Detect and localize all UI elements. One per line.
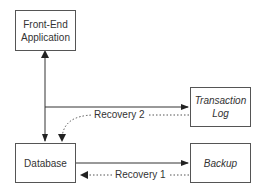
recovery-1-label: Recovery 1 bbox=[113, 169, 168, 181]
node-label: Transaction bbox=[195, 94, 247, 107]
node-label: Log bbox=[195, 107, 247, 120]
front-end-application-node: Front-End Application bbox=[15, 10, 76, 51]
recovery-2-label: Recovery 2 bbox=[92, 109, 147, 121]
database-node: Database bbox=[15, 143, 76, 183]
node-label: Application bbox=[21, 31, 70, 44]
node-label: Backup bbox=[204, 157, 237, 170]
backup-node: Backup bbox=[190, 143, 251, 183]
transaction-log-node: Transaction Log bbox=[190, 87, 251, 127]
node-label: Database bbox=[24, 157, 67, 170]
diagram-canvas: Front-End Application Database Transacti… bbox=[0, 0, 267, 195]
node-label: Front-End bbox=[21, 18, 70, 31]
